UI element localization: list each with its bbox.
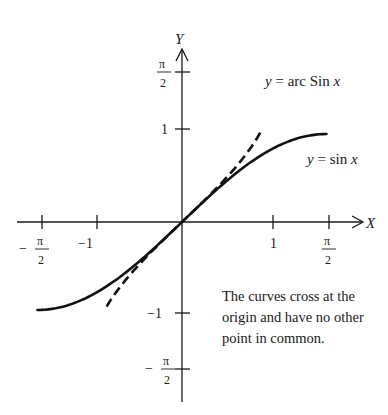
x-axis-label: X bbox=[365, 215, 376, 231]
y-tick-label-neg-one: −1 bbox=[147, 306, 162, 321]
x-tick-label-neg-pi-half: − π 2 bbox=[19, 234, 49, 267]
y-tick-label-neg-pi-half: − π 2 bbox=[145, 354, 175, 387]
svg-text:2: 2 bbox=[160, 76, 166, 90]
svg-text:−: − bbox=[145, 361, 153, 376]
svg-text:−: − bbox=[19, 241, 27, 256]
svg-text:π: π bbox=[159, 57, 165, 71]
x-tick-label-pi-half: π 2 bbox=[322, 234, 336, 267]
svg-text:π: π bbox=[324, 234, 330, 248]
svg-text:2: 2 bbox=[164, 373, 170, 387]
x-tick-label-neg-one: −1 bbox=[78, 236, 93, 251]
svg-text:2: 2 bbox=[325, 253, 331, 267]
arcsin-curve-label: y = arc Sin x bbox=[263, 73, 340, 89]
y-tick-label-pi-half: π 2 bbox=[157, 57, 171, 90]
svg-text:π: π bbox=[163, 354, 169, 368]
svg-text:π: π bbox=[37, 234, 43, 248]
arcsin-curve bbox=[107, 131, 262, 307]
svg-text:2: 2 bbox=[38, 253, 44, 267]
sin-curve-label: y = sin x bbox=[305, 151, 358, 167]
graph: Y X − π 2 −1 1 π 2 π 2 1 −1 − π 2 y = ar… bbox=[0, 0, 388, 415]
x-tick-label-one: 1 bbox=[270, 236, 277, 251]
y-axis-label: Y bbox=[175, 31, 185, 47]
y-tick-label-one: 1 bbox=[161, 122, 168, 137]
caption-note: The curves cross at the origin and have … bbox=[222, 286, 388, 349]
